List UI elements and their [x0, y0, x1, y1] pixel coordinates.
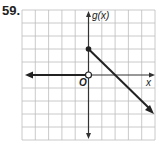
y-axis-label: g(x) [92, 10, 109, 21]
x-axis-label: x [146, 77, 151, 88]
y-axis-arrow-down [86, 133, 91, 139]
origin-label: O [79, 77, 87, 88]
left-piece-arrow [25, 72, 33, 79]
graph [0, 0, 159, 149]
y-axis-arrow-up [86, 11, 91, 17]
closed-endpoint [86, 46, 92, 52]
